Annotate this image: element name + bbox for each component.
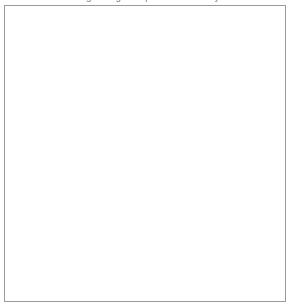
label-stent-props: Stent props the artery open bbox=[188, 217, 286, 240]
label-catheter: Catheter bbox=[105, 18, 143, 30]
figure-top-caption: Drug-eluting stent placed in an artery bbox=[0, 0, 291, 3]
label-polymer-coating: Polymer coating covering stent releases … bbox=[12, 95, 116, 130]
stent-illustration-figure: Drug-eluting stent placed in an artery bbox=[0, 0, 291, 308]
label-balloon: Balloon inflates to place stent bbox=[223, 18, 287, 53]
magnifier-circle-large bbox=[11, 146, 161, 296]
label-stent: Stent bbox=[180, 18, 203, 30]
magnifier-circle-small bbox=[183, 103, 233, 154]
